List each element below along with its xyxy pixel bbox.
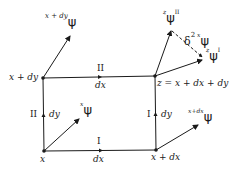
edge-right-arrow-icon: [154, 112, 158, 116]
psi-icon: ψ: [83, 102, 92, 117]
psi-icon: ψ: [204, 109, 213, 124]
edge-right-label: dy: [161, 110, 172, 119]
edge-bottom-arrow-icon: [99, 149, 103, 153]
edge-top-label: dx: [95, 81, 106, 90]
psi-icon: ψ: [68, 14, 77, 29]
psi-icon: ψ: [200, 33, 209, 48]
vector-label-x-dy: x + dyψ: [45, 13, 76, 29]
node-label-x-dy: x + dy: [9, 73, 38, 82]
vector-at-x-dx: [156, 125, 198, 150]
vector-at-z-II: [155, 31, 171, 76]
vector-label-x: xψ: [80, 101, 92, 117]
node-label-z: z = x + dx + dy: [157, 79, 228, 88]
edge-bottom-roman: I: [97, 137, 101, 146]
psi-icon: ψ: [166, 10, 175, 25]
edge-bottom-label: dx: [93, 155, 104, 164]
edge-left-roman: II: [30, 110, 37, 119]
vector-label-z-II: zψII: [163, 9, 180, 25]
edge-left-arrow-icon: [42, 113, 46, 117]
vector-label-x-dx: x+dxψ: [188, 108, 212, 124]
vector-at-x-dy: [43, 36, 70, 78]
node-label-x-dx: x + dx: [151, 153, 180, 162]
edge-left-label: dy: [49, 110, 60, 119]
psi-icon: ψ: [209, 48, 218, 63]
vector-at-z-I: [155, 60, 202, 76]
edge-top-arrow-icon: [98, 75, 102, 79]
vector-at-x: [44, 119, 79, 151]
edge-top-roman: II: [97, 64, 104, 73]
node-label-x: x: [40, 155, 45, 164]
vector-label-z-I: zψI: [206, 47, 220, 63]
edge-right-roman: I: [147, 110, 151, 119]
difference-label: δ2xψ: [184, 32, 209, 48]
